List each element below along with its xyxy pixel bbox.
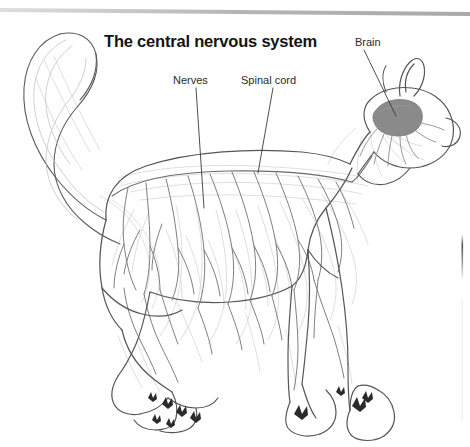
callout-label-brain: Brain <box>355 36 381 48</box>
spinal-cord-line <box>112 156 372 196</box>
cat-nervous-system-illustration <box>0 0 470 447</box>
peripheral-nerves <box>114 172 354 390</box>
leader-line-spinal-cord <box>258 88 273 173</box>
right-page-faint-rule <box>462 300 463 420</box>
scan-artifacts <box>0 8 470 420</box>
callout-label-nerves: Nerves <box>173 74 208 86</box>
figure-title: The central nervous system <box>104 32 317 51</box>
figure-page: The central nervous system Nerves Spinal… <box>0 0 470 447</box>
callout-label-spinal-cord: Spinal cord <box>241 74 296 86</box>
cat-body-outline <box>100 132 370 330</box>
top-page-rule <box>0 8 470 16</box>
paw-claws <box>148 386 373 428</box>
cat-hind-legs <box>102 288 218 433</box>
right-page-mark <box>462 234 464 278</box>
leader-line-nerves <box>196 88 204 208</box>
